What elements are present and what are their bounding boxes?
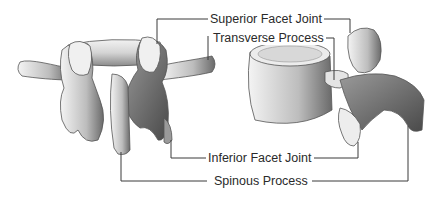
vertebra-diagram: Superior Facet Joint Transverse Process … — [0, 0, 440, 198]
leader-inferior-facet-left — [171, 140, 206, 158]
leader-spinous-left — [121, 152, 207, 181]
label-superior-facet-joint: Superior Facet Joint — [208, 12, 324, 26]
vertebra-illustration — [0, 0, 440, 198]
lateral-vertebra — [248, 28, 424, 146]
label-transverse-process: Transverse Process — [211, 31, 326, 45]
label-spinous-process: Spinous Process — [212, 174, 310, 188]
posterior-vertebra — [18, 37, 215, 155]
label-inferior-facet-joint: Inferior Facet Joint — [206, 151, 314, 165]
leader-superior-facet-left — [157, 19, 208, 44]
